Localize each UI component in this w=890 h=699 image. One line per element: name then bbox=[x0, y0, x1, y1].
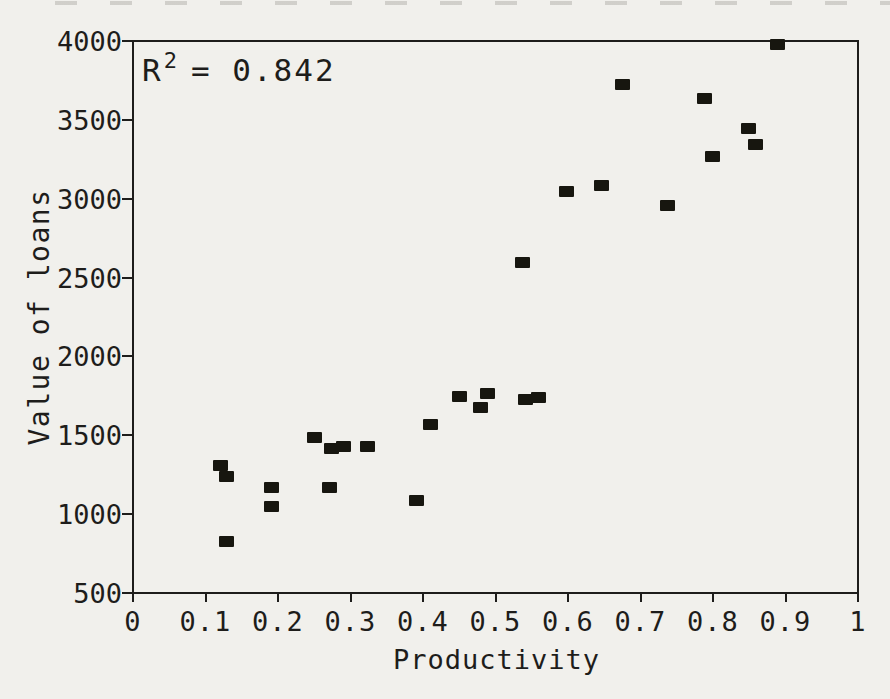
data-point bbox=[264, 482, 279, 493]
x-tick-mark bbox=[785, 593, 787, 602]
y-tick-label: 1500 bbox=[18, 420, 122, 451]
x-tick-mark bbox=[857, 593, 859, 602]
y-tick-mark bbox=[122, 198, 133, 200]
x-tick-mark bbox=[350, 593, 352, 602]
data-point bbox=[452, 391, 467, 402]
data-point bbox=[219, 536, 234, 547]
data-point bbox=[213, 460, 228, 471]
data-point bbox=[473, 402, 488, 413]
x-tick-mark bbox=[132, 593, 134, 602]
data-point bbox=[409, 495, 424, 506]
x-tick-mark bbox=[205, 593, 207, 602]
x-tick-mark bbox=[712, 593, 714, 602]
data-point bbox=[423, 419, 438, 430]
data-point bbox=[360, 441, 375, 452]
data-point bbox=[741, 123, 756, 134]
scatter-plot-figure: R2= 0.842 Value of loans Productivity 00… bbox=[0, 0, 890, 699]
y-tick-label: 3000 bbox=[18, 184, 122, 215]
r-squared-value: = 0.842 bbox=[191, 52, 336, 88]
y-tick-mark bbox=[122, 592, 133, 594]
scan-artifact-line bbox=[55, 1, 890, 5]
data-point bbox=[770, 39, 785, 50]
y-tick-mark bbox=[122, 355, 133, 357]
data-point bbox=[336, 441, 351, 452]
y-tick-label: 3500 bbox=[18, 105, 122, 136]
data-point bbox=[559, 186, 574, 197]
data-point bbox=[480, 388, 495, 399]
x-tick-label: 1 bbox=[813, 606, 890, 637]
y-tick-label: 2000 bbox=[18, 341, 122, 372]
data-point bbox=[748, 139, 763, 150]
data-point bbox=[594, 180, 609, 191]
y-tick-label: 500 bbox=[18, 578, 122, 609]
y-tick-mark bbox=[122, 513, 133, 515]
y-tick-mark bbox=[122, 40, 133, 42]
data-point bbox=[615, 79, 630, 90]
x-axis-title: Productivity bbox=[134, 644, 859, 675]
r-squared-base: R bbox=[142, 52, 161, 88]
data-point bbox=[660, 200, 675, 211]
x-tick-mark bbox=[422, 593, 424, 602]
data-point bbox=[219, 471, 234, 482]
y-tick-label: 2500 bbox=[18, 263, 122, 294]
data-point bbox=[515, 257, 530, 268]
y-tick-mark bbox=[122, 434, 133, 436]
y-tick-label: 4000 bbox=[18, 26, 122, 57]
r-squared-annotation: R2= 0.842 bbox=[142, 52, 336, 88]
data-point bbox=[307, 432, 322, 443]
data-point bbox=[697, 93, 712, 104]
y-tick-mark bbox=[122, 277, 133, 279]
x-tick-mark bbox=[495, 593, 497, 602]
y-tick-label: 1000 bbox=[18, 499, 122, 530]
x-tick-mark bbox=[567, 593, 569, 602]
x-tick-mark bbox=[640, 593, 642, 602]
r-squared-superscript: 2 bbox=[164, 48, 177, 73]
y-axis-title: Value of loans bbox=[26, 177, 54, 457]
data-point bbox=[705, 151, 720, 162]
data-point bbox=[531, 392, 546, 403]
data-point bbox=[264, 501, 279, 512]
y-tick-mark bbox=[122, 119, 133, 121]
data-point bbox=[322, 482, 337, 493]
x-tick-mark bbox=[277, 593, 279, 602]
